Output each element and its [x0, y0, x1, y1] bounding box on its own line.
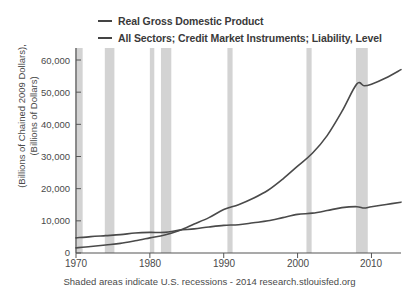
y-tick-label: 40,000 — [24, 119, 70, 130]
legend-item-gdp: Real Gross Domestic Product — [98, 13, 418, 28]
legend-label-gdp: Real Gross Domestic Product — [118, 15, 264, 27]
x-tick-label: 1990 — [213, 258, 235, 269]
recession-band — [105, 48, 115, 253]
recession-band — [150, 48, 154, 253]
fred-chart-figure: Real Gross Domestic Product All Sectors;… — [0, 0, 419, 299]
y-tick-label: 0 — [24, 247, 70, 258]
y-tick-label: 10,000 — [24, 215, 70, 226]
y-axis-tick-labels: 0 10,000 20,000 30,000 40,000 50,000 60,… — [22, 0, 70, 299]
x-tick-label: 1970 — [65, 258, 87, 269]
axis-lines — [76, 48, 401, 253]
data-series-group — [76, 70, 401, 248]
y-tick-label: 50,000 — [24, 87, 70, 98]
recession-band — [306, 48, 311, 253]
legend-line-swatch-gdp — [98, 20, 112, 22]
recession-shading-group — [75, 48, 368, 253]
recession-band — [356, 48, 368, 253]
series-line-gdp — [76, 202, 401, 238]
x-tick-label: 2000 — [287, 258, 309, 269]
series-line-credit — [76, 70, 401, 248]
recession-band — [161, 48, 171, 253]
chart-footnote: Shaded areas indicate U.S. recessions - … — [0, 276, 419, 287]
y-tick-label: 60,000 — [24, 55, 70, 66]
x-tick-label: 2010 — [360, 258, 382, 269]
y-tick-label: 20,000 — [24, 183, 70, 194]
axis-ticks — [76, 60, 371, 258]
legend-line-swatch-credit — [98, 37, 112, 39]
legend-label-credit: All Sectors; Credit Market Instruments; … — [118, 32, 382, 44]
legend-item-credit: All Sectors; Credit Market Instruments; … — [98, 30, 418, 45]
x-tick-label: 1980 — [139, 258, 161, 269]
chart-legend: Real Gross Domestic Product All Sectors;… — [98, 13, 418, 47]
recession-band — [227, 48, 232, 253]
y-tick-label: 30,000 — [24, 151, 70, 162]
